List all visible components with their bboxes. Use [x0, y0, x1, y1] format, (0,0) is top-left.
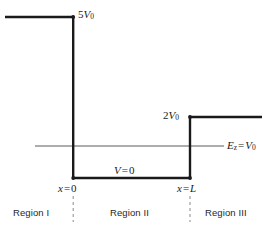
label-x-zero: x=0: [58, 183, 77, 194]
label-energy-value-subscript: 0: [252, 143, 256, 152]
label-x-l: x=L: [177, 183, 196, 194]
label-2v0: 2V0: [163, 110, 179, 122]
dot-top-step-corner: [71, 15, 75, 19]
label-energy-level: Ez=V0: [227, 140, 256, 152]
label-x-zero-operator: =: [63, 182, 71, 194]
label-well-value: 0: [129, 164, 135, 176]
dot-right-step-corner: [188, 115, 192, 119]
label-x-l-operator: =: [182, 182, 190, 194]
potential-energy-diagram: 5V0 2V0 Ez=V0 V=0 x=0 x=L Region I Regio…: [0, 0, 278, 231]
label-2v0-subscript: 0: [175, 113, 179, 122]
label-x-l-value: L: [190, 182, 196, 194]
dot-well-left-corner: [71, 176, 75, 180]
diagram-canvas: [0, 0, 278, 231]
label-well-symbol: V: [114, 164, 121, 176]
label-5v0-subscript: 0: [90, 12, 94, 21]
label-well-potential: V=0: [114, 165, 134, 176]
label-energy-symbol: E: [227, 139, 234, 151]
label-region-iii: Region III: [205, 208, 247, 218]
label-well-operator: =: [121, 164, 129, 176]
dot-well-right-corner: [188, 176, 192, 180]
label-region-i: Region I: [13, 208, 49, 218]
label-5v0: 5V0: [78, 9, 94, 21]
label-x-zero-value: 0: [71, 182, 77, 194]
label-region-ii: Region II: [110, 208, 149, 218]
